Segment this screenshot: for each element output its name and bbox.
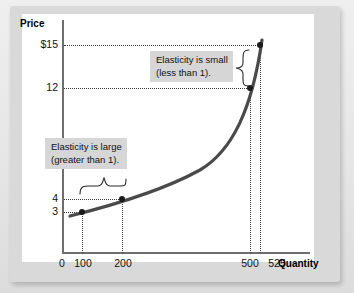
- x-tick-label-200: 200: [108, 258, 138, 269]
- brace-elasticity-small: [236, 50, 249, 86]
- annotation-large-line1: Elasticity is large: [51, 141, 122, 154]
- y-tick-label-15: $15: [40, 39, 58, 50]
- y-tick-label-3: 3: [52, 206, 58, 217]
- data-point-200-4: [119, 196, 125, 202]
- data-point-100-3: [79, 209, 85, 215]
- figure-root: Price $15 12 4 3 0 100 200 500 525 Quant…: [0, 0, 354, 293]
- annotation-small-line2: (less than 1).: [156, 67, 228, 80]
- annotation-small-line1: Elasticity is small: [156, 54, 228, 67]
- y-tick-label-12: 12: [46, 82, 58, 93]
- annotation-large-line2: (greater than 1).: [51, 154, 122, 167]
- annotation-elasticity-small: Elasticity is small (less than 1).: [150, 51, 233, 82]
- annotation-elasticity-large: Elasticity is large (greater than 1).: [45, 138, 127, 169]
- data-point-500-12: [247, 85, 253, 91]
- y-axis-title: Price: [20, 18, 44, 29]
- x-axis-title: Quantity: [278, 258, 319, 269]
- x-tick-label-100: 100: [68, 258, 98, 269]
- y-tick-label-4: 4: [52, 193, 58, 204]
- brace-elasticity-large: [80, 178, 126, 194]
- x-tick-label-500: 500: [235, 258, 265, 269]
- data-point-525-15: [257, 42, 263, 48]
